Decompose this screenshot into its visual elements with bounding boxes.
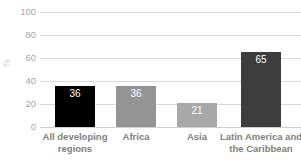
category-label-latin-america-and-the-caribbean: Latin America and the Caribbean [219,131,301,154]
category-label-africa: Africa [99,131,173,143]
bar-value-latin-america-and-the-caribbean: 65 [241,54,281,65]
bar-asia[interactable]: 21 [177,103,217,127]
bar-africa[interactable]: 36 [116,86,156,127]
bar-chart: % 100 80 60 40 20 0 36 36 21 65 All deve… [0,0,301,161]
bar-latin-america-and-the-caribbean[interactable]: 65 [241,52,281,127]
bar-value-all-developing-regions: 36 [55,88,95,99]
bar-value-asia: 21 [177,105,217,116]
bar-value-africa: 36 [116,88,156,99]
bar-all-developing-regions[interactable]: 36 [55,86,95,127]
